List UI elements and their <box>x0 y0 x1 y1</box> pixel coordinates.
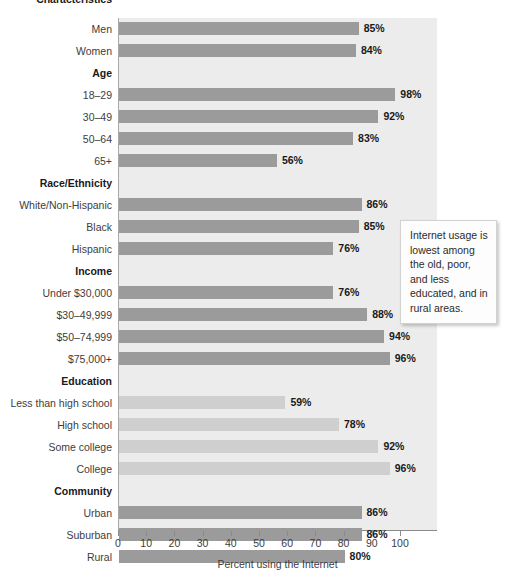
bar <box>119 154 277 167</box>
bar-category-label: White/Non-Hispanic <box>0 194 112 216</box>
bar-value-label: 96% <box>395 458 416 480</box>
bar-value-label: 84% <box>361 40 382 62</box>
bar <box>119 418 339 431</box>
bar-category-label: 50–64 <box>0 128 112 150</box>
bar-row: Women84% <box>0 40 511 62</box>
bar <box>119 462 390 475</box>
bar-category-label: 18–29 <box>0 84 112 106</box>
x-axis-tick <box>287 531 288 536</box>
bar-category-label: Rural <box>0 546 112 568</box>
bar-value-label: 83% <box>358 128 379 150</box>
bar-value-label: 94% <box>389 326 410 348</box>
bar-row: Men85% <box>0 18 511 40</box>
x-axis-tick <box>118 531 119 536</box>
group-header-label: Income <box>0 260 112 282</box>
bar <box>119 198 362 211</box>
group-header-race-ethnicity: Race/Ethnicity <box>0 172 511 194</box>
bar-row: Less than high school59% <box>0 392 511 414</box>
internet-usage-bar-chart: CharacteristicsMen85%Women84%Age18–2998%… <box>0 0 511 580</box>
bar <box>119 286 333 299</box>
bar-category-label: Under $30,000 <box>0 282 112 304</box>
bar-category-label: Men <box>0 18 112 40</box>
group-header-label: Age <box>0 62 112 84</box>
bar-value-label: 86% <box>367 502 388 524</box>
x-axis-tick <box>231 531 232 536</box>
x-axis-tick <box>259 531 260 536</box>
group-header-label: Community <box>0 480 112 502</box>
group-header-label: Race/Ethnicity <box>0 172 112 194</box>
insight-callout: Internet usage is lowest among the old, … <box>400 220 497 324</box>
bar-row: $50–74,99994% <box>0 326 511 348</box>
bar-category-label: Women <box>0 40 112 62</box>
bar-category-label: $50–74,999 <box>0 326 112 348</box>
bar-category-label: Black <box>0 216 112 238</box>
bar-row: 30–4992% <box>0 106 511 128</box>
bar <box>119 330 384 343</box>
x-axis-tick-label: 100 <box>380 537 420 549</box>
bar-row: 65+56% <box>0 150 511 172</box>
x-axis-title: Percent using the Internet <box>118 558 437 570</box>
bar-value-label: 76% <box>338 282 359 304</box>
group-header-label: Education <box>0 370 112 392</box>
bar <box>119 396 285 409</box>
bar-row: Urban86% <box>0 502 511 524</box>
x-axis-tick <box>174 531 175 536</box>
bar <box>119 308 367 321</box>
bar <box>119 44 356 57</box>
bar-category-label: Hispanic <box>0 238 112 260</box>
x-axis-tick <box>372 531 373 536</box>
bar-category-label: High school <box>0 414 112 436</box>
bar <box>119 506 362 519</box>
group-header-community: Community <box>0 480 511 502</box>
x-axis-tick <box>203 531 204 536</box>
bar-category-label: Less than high school <box>0 392 112 414</box>
bar <box>119 22 359 35</box>
bar-category-label: $75,000+ <box>0 348 112 370</box>
chart-header-label: Characteristics <box>0 0 112 10</box>
chart-header-characteristics: Characteristics <box>0 0 511 10</box>
bar <box>119 110 378 123</box>
x-axis-tick <box>315 531 316 536</box>
bar-category-label: $30–49,999 <box>0 304 112 326</box>
bar-value-label: 59% <box>290 392 311 414</box>
bar <box>119 242 333 255</box>
bar-value-label: 88% <box>372 304 393 326</box>
group-header-age: Age <box>0 62 511 84</box>
bar-row: 18–2998% <box>0 84 511 106</box>
bar-value-label: 86% <box>367 194 388 216</box>
bar-value-label: 78% <box>344 414 365 436</box>
bar-value-label: 85% <box>364 18 385 40</box>
bar <box>119 132 353 145</box>
bar-category-label: Suburban <box>0 524 112 546</box>
bar-row: Some college92% <box>0 436 511 458</box>
bar-value-label: 98% <box>400 84 421 106</box>
bar-row: White/Non-Hispanic86% <box>0 194 511 216</box>
bar-value-label: 92% <box>383 106 404 128</box>
bar <box>119 88 395 101</box>
bar-category-label: College <box>0 458 112 480</box>
bar-value-label: 92% <box>383 436 404 458</box>
bar-row: 50–6483% <box>0 128 511 150</box>
bar-value-label: 85% <box>364 216 385 238</box>
bar-category-label: 30–49 <box>0 106 112 128</box>
bar-value-label: 96% <box>395 348 416 370</box>
group-header-education: Education <box>0 370 511 392</box>
bar-category-label: Urban <box>0 502 112 524</box>
bar-row: College96% <box>0 458 511 480</box>
bar <box>119 220 359 233</box>
bar-category-label: Some college <box>0 436 112 458</box>
bar <box>119 352 390 365</box>
bar <box>119 440 378 453</box>
x-axis-tick <box>400 531 401 536</box>
x-axis-tick <box>344 531 345 536</box>
bar-row: $75,000+96% <box>0 348 511 370</box>
x-axis-tick <box>146 531 147 536</box>
bar-category-label: 65+ <box>0 150 112 172</box>
bar-row: High school78% <box>0 414 511 436</box>
bar-value-label: 76% <box>338 238 359 260</box>
bar-value-label: 56% <box>282 150 303 172</box>
